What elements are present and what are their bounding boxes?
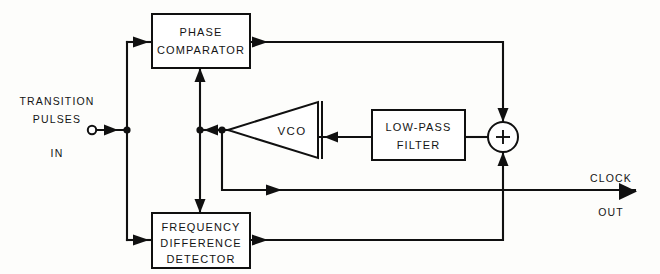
wire-vco-feedback-vertical (195, 68, 206, 213)
block-frequency-difference-detector[interactable]: FREQUENCY DIFFERENCE DETECTOR (152, 213, 250, 268)
block-low-pass-filter[interactable]: LOW-PASS FILTER (372, 110, 465, 160)
output-label-line2: OUT (598, 206, 624, 218)
wire-input-trunk (123, 42, 130, 240)
wire-vco-output (196, 125, 228, 136)
input-label-line1: TRANSITION (19, 95, 94, 107)
input-label-group: TRANSITION PULSES IN (19, 95, 94, 159)
low-pass-filter-label-line1: LOW-PASS (386, 121, 452, 133)
block-summing-node[interactable] (488, 122, 518, 152)
input-label-line3: IN (51, 147, 64, 159)
vco-label: VCO (278, 125, 307, 137)
pll-block-diagram: PHASE COMPARATOR FREQUENCY DIFFERENCE DE… (0, 0, 660, 274)
block-phase-comparator[interactable]: PHASE COMPARATOR (152, 14, 250, 68)
wire-filter-to-vco (320, 132, 372, 143)
input-terminal[interactable] (88, 126, 96, 134)
phase-comparator-label-line2: COMPARATOR (157, 44, 245, 56)
wire-input-lead (96, 125, 127, 136)
block-vco[interactable]: VCO (228, 101, 322, 159)
fdd-label-line1: FREQUENCY (162, 221, 241, 233)
fdd-label-line3: DETECTOR (166, 253, 235, 265)
phase-comparator-label-line1: PHASE (180, 26, 223, 38)
wire-fdd-to-summer (250, 152, 509, 246)
wire-input-to-phase-comparator (127, 37, 152, 48)
diagram-canvas: PHASE COMPARATOR FREQUENCY DIFFERENCE DE… (0, 0, 660, 274)
output-label-line1: CLOCK (590, 172, 632, 184)
low-pass-filter-label-line2: FILTER (397, 139, 441, 151)
input-label-line2: PULSES (33, 113, 81, 125)
wire-input-to-fdd (127, 235, 152, 246)
fdd-label-line2: DIFFERENCE (160, 237, 241, 249)
